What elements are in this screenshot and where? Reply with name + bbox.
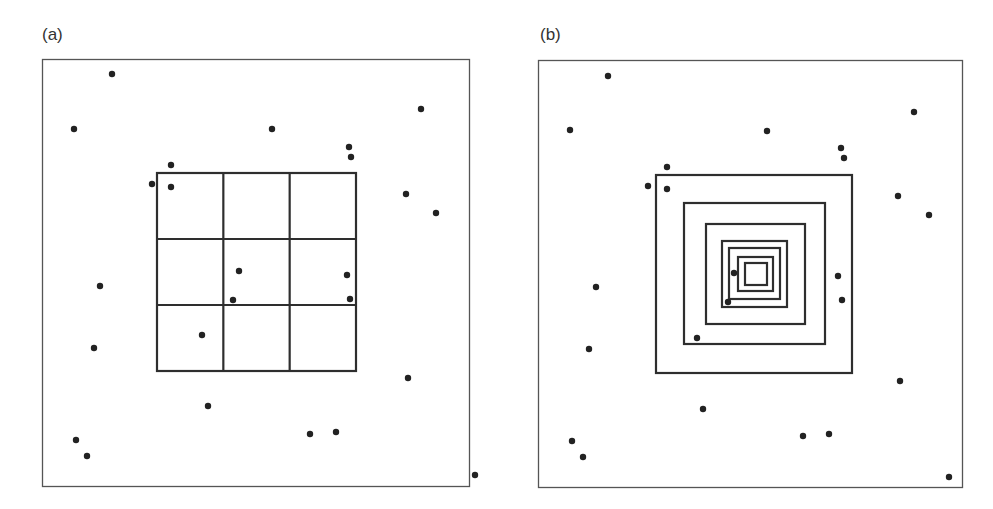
panel-b-points xyxy=(567,73,952,480)
panel-b-frame xyxy=(539,61,963,488)
data-point xyxy=(405,375,411,381)
panel-a-label: (a) xyxy=(42,26,63,43)
data-point xyxy=(230,297,236,303)
panel-a-points xyxy=(71,71,478,478)
panel-a-uniform-grid xyxy=(42,59,470,487)
data-point xyxy=(346,144,352,150)
data-point xyxy=(835,273,841,279)
data-point xyxy=(946,474,952,480)
data-point xyxy=(168,184,174,190)
nested-square-3 xyxy=(706,224,805,324)
data-point xyxy=(725,299,731,305)
nested-square-7 xyxy=(745,263,767,285)
data-point xyxy=(569,438,575,444)
data-point xyxy=(839,297,845,303)
data-point xyxy=(347,296,353,302)
data-point xyxy=(731,270,737,276)
data-point xyxy=(567,127,573,133)
data-point xyxy=(91,345,97,351)
data-point xyxy=(593,284,599,290)
data-point xyxy=(149,181,155,187)
data-point xyxy=(897,378,903,384)
data-point xyxy=(97,283,103,289)
grid-outline xyxy=(157,173,356,371)
data-point xyxy=(472,472,478,478)
data-point xyxy=(586,346,592,352)
data-point xyxy=(800,433,806,439)
data-point xyxy=(664,164,670,170)
data-point xyxy=(307,431,313,437)
data-point xyxy=(645,183,651,189)
data-point xyxy=(348,154,354,160)
data-point xyxy=(700,406,706,412)
data-point xyxy=(605,73,611,79)
data-point xyxy=(826,431,832,437)
data-point xyxy=(694,335,700,341)
data-point xyxy=(205,403,211,409)
data-point xyxy=(895,193,901,199)
data-point xyxy=(199,332,205,338)
data-point xyxy=(403,191,409,197)
panel-a-frame xyxy=(43,60,470,487)
panel-b-nested-squares-group xyxy=(656,175,852,373)
data-point xyxy=(838,145,844,151)
panel-b-nested-squares xyxy=(538,60,963,488)
data-point xyxy=(168,162,174,168)
data-point xyxy=(580,454,586,460)
data-point xyxy=(841,155,847,161)
panel-b-label: (b) xyxy=(540,26,561,43)
data-point xyxy=(664,186,670,192)
data-point xyxy=(911,109,917,115)
data-point xyxy=(73,437,79,443)
data-point xyxy=(84,453,90,459)
data-point xyxy=(269,126,275,132)
data-point xyxy=(71,126,77,132)
data-point xyxy=(764,128,770,134)
data-point xyxy=(344,272,350,278)
data-point xyxy=(418,106,424,112)
data-point xyxy=(109,71,115,77)
data-point xyxy=(433,210,439,216)
data-point xyxy=(926,212,932,218)
data-point xyxy=(333,429,339,435)
panel-a-grid xyxy=(157,173,356,371)
data-point xyxy=(236,268,242,274)
